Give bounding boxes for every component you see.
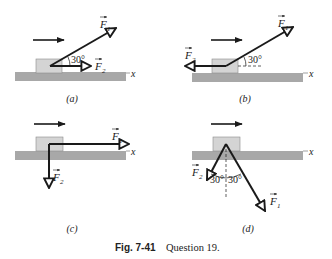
caption-text: Question 19. xyxy=(166,242,220,253)
x-axis-label: x xyxy=(130,68,136,79)
ground xyxy=(15,72,126,81)
figure-canvas: x 30° F 1 F 2 (a) x 30° xyxy=(0,0,332,259)
ground xyxy=(192,151,303,160)
angle-label-f1: 30° xyxy=(228,174,242,185)
panel-label: (d) xyxy=(242,223,254,235)
x-axis-label: x xyxy=(308,146,314,157)
x-axis-label: x xyxy=(130,146,136,157)
svg-text:F: F xyxy=(191,166,199,178)
svg-text:F: F xyxy=(184,49,192,61)
svg-text:F: F xyxy=(94,60,102,72)
label-f1: F 1 xyxy=(277,16,289,32)
svg-text:2: 2 xyxy=(102,67,106,75)
svg-text:1: 1 xyxy=(285,24,289,32)
label-f2: F 2 xyxy=(52,170,64,186)
angle-label-f2: 30° xyxy=(210,174,224,185)
angle-arc xyxy=(244,57,246,66)
svg-text:F: F xyxy=(99,18,107,30)
panel-a: x 30° F 1 F 2 (a) xyxy=(15,17,136,105)
panel-c: x F 1 F 2 (c) xyxy=(15,124,136,235)
angle-arc xyxy=(68,57,70,66)
caption-label: Fig. 7-41 xyxy=(115,242,156,253)
panel-label: (a) xyxy=(66,93,78,105)
ground xyxy=(192,73,303,82)
svg-text:F: F xyxy=(277,17,285,29)
label-f1: F 1 xyxy=(269,194,281,210)
svg-text:1: 1 xyxy=(119,137,123,145)
angle-label: 30° xyxy=(248,54,262,65)
svg-text:2: 2 xyxy=(192,56,196,64)
svg-text:F: F xyxy=(52,171,60,183)
svg-text:F: F xyxy=(269,195,277,207)
label-f2: F 2 xyxy=(191,165,203,181)
label-f1: F 1 xyxy=(111,129,123,145)
ground xyxy=(15,151,126,160)
angle-label: 30° xyxy=(71,54,85,65)
svg-text:F: F xyxy=(111,130,119,142)
label-f1: F 1 xyxy=(99,17,111,33)
panel-label: (b) xyxy=(239,93,251,105)
panel-d: x 30° 30° F 2 F 1 (d) xyxy=(191,124,314,235)
svg-text:2: 2 xyxy=(199,173,203,181)
panel-b: x 30° F 1 F 2 (b) xyxy=(184,16,314,105)
svg-text:1: 1 xyxy=(277,202,281,210)
label-f2: F 2 xyxy=(184,48,196,64)
figure-caption: Fig. 7-41 Question 19. xyxy=(115,242,220,253)
x-axis-label: x xyxy=(308,68,314,79)
panel-label: (c) xyxy=(66,223,78,235)
svg-text:2: 2 xyxy=(60,178,64,186)
svg-text:1: 1 xyxy=(107,25,111,33)
